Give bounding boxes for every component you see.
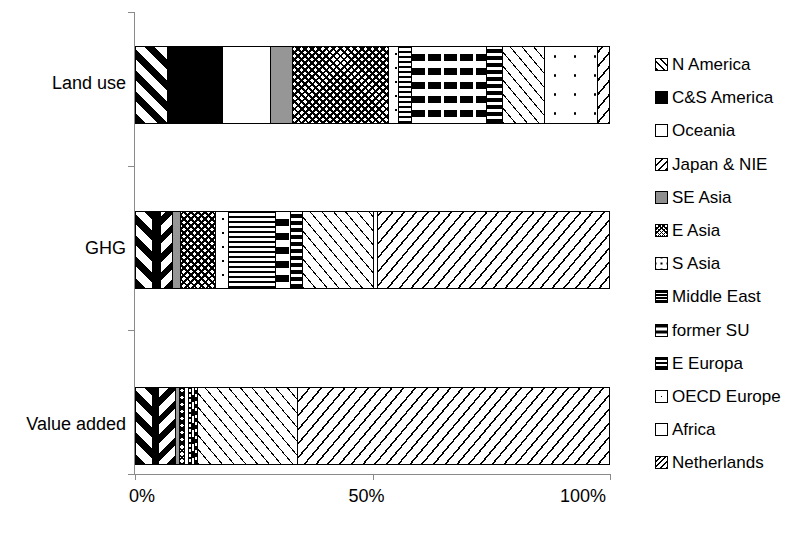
legend-swatch-e-europa-icon	[655, 357, 668, 370]
bar-segment-n-america	[136, 388, 153, 464]
bar-segment-s-asia	[389, 47, 399, 123]
y-axis-label-value-added: Value added	[26, 414, 126, 435]
y-axis-label-land-use: Land use	[52, 73, 126, 94]
legend-swatch-oceania-icon	[655, 124, 668, 137]
legend-item-former-su[interactable]: former SU	[655, 314, 801, 347]
legend-label: Africa	[672, 421, 715, 438]
bar-segment-middle-east	[399, 47, 413, 123]
legend-label: OECD Europe	[672, 388, 781, 405]
bar-land-use	[135, 46, 610, 124]
legend-swatch-former-su-icon	[655, 324, 668, 337]
legend-swatch-e-asia-icon	[655, 224, 668, 237]
legend-item-middle-east[interactable]: Middle East	[655, 280, 801, 313]
legend-label: Japan & NIE	[672, 156, 767, 173]
legend-item-e-asia[interactable]: E Asia	[655, 214, 801, 247]
x-axis-tick-100	[610, 474, 611, 480]
legend-item-netherlands[interactable]: Netherlands	[655, 446, 801, 479]
y-axis-tick-3	[128, 474, 135, 475]
legend-label: E Europa	[672, 355, 743, 372]
bar-segment-cs-america	[168, 47, 223, 123]
legend-item-africa[interactable]: Africa	[655, 413, 801, 446]
legend-item-oceania[interactable]: Oceania	[655, 114, 801, 147]
legend-item-se-asia[interactable]: SE Asia	[655, 181, 801, 214]
stacked-bar-chart: Land use GHG Value added 0%50%100% N Ame…	[0, 0, 801, 544]
bar-segment-former-su	[412, 47, 487, 123]
bar-segment-netherlands	[598, 47, 610, 123]
bar-segment-oceania	[223, 47, 271, 123]
bar-segment-japan-nie	[159, 388, 176, 464]
legend-swatch-africa-icon	[655, 423, 668, 436]
bar-segment-e-asia	[181, 212, 216, 288]
bar-segment-n-america	[136, 47, 168, 123]
bar-segment-se-asia	[173, 212, 181, 288]
bar-segment-e-asia	[293, 47, 389, 123]
y-axis-tick-2	[128, 330, 135, 331]
bar-value-added	[135, 387, 610, 465]
legend-swatch-netherlands-icon	[655, 456, 668, 469]
bar-segment-africa	[545, 47, 597, 123]
bar-segment-japan-nie	[161, 212, 173, 288]
y-axis-label-ghg: GHG	[85, 238, 126, 259]
legend-label: S Asia	[672, 255, 720, 272]
bar-segment-s-asia	[216, 212, 229, 288]
legend-label: Netherlands	[672, 454, 764, 471]
legend-swatch-n-america-icon	[655, 58, 668, 71]
legend-swatch-s-asia-icon	[655, 257, 668, 270]
bar-segment-se-asia	[271, 47, 293, 123]
bar-segment-netherlands	[378, 212, 610, 288]
legend-item-n-america[interactable]: N America	[655, 48, 801, 81]
y-axis-labels: Land use GHG Value added	[0, 0, 126, 544]
legend-item-cs-america[interactable]: C&S America	[655, 81, 801, 114]
legend-label: N America	[672, 56, 750, 73]
legend-item-e-europa[interactable]: E Europa	[655, 347, 801, 380]
legend-swatch-se-asia-icon	[655, 191, 668, 204]
legend-label: SE Asia	[672, 189, 732, 206]
bar-segment-oecd-europe	[198, 388, 298, 464]
legend-swatch-japan-nie-icon	[655, 158, 668, 171]
bar-segment-netherlands	[298, 388, 610, 464]
x-axis-tick-50	[373, 474, 374, 480]
bar-segment-oecd-europe	[303, 212, 374, 288]
x-axis-tick-0	[135, 474, 136, 480]
legend-label: Middle East	[672, 288, 761, 305]
x-axis-tick-label-100: 100%	[560, 486, 606, 507]
y-axis-tick-0	[128, 12, 135, 13]
bar-segment-n-america	[136, 212, 153, 288]
legend-label: Oceania	[672, 122, 735, 139]
legend-swatch-cs-america-icon	[655, 91, 668, 104]
legend-swatch-oecd-europe-icon	[655, 390, 668, 403]
bar-segment-e-europa	[487, 47, 502, 123]
bar-segment-cs-america	[153, 212, 161, 288]
legend-swatch-middle-east-icon	[655, 290, 668, 303]
legend-item-s-asia[interactable]: S Asia	[655, 247, 801, 280]
legend-item-japan-nie[interactable]: Japan & NIE	[655, 148, 801, 181]
bar-segment-former-su	[276, 212, 291, 288]
bar-ghg	[135, 211, 610, 289]
legend-label: former SU	[672, 322, 749, 339]
legend-item-oecd-europe[interactable]: OECD Europe	[655, 380, 801, 413]
y-axis-tick-1	[128, 166, 135, 167]
x-axis-tick-label-0: 0%	[129, 486, 155, 507]
bar-segment-e-europa	[291, 212, 303, 288]
x-axis-tick-label-50: 50%	[349, 486, 385, 507]
legend-label: E Asia	[672, 222, 720, 239]
legend-label: C&S America	[672, 89, 773, 106]
bar-segment-oecd-europe	[503, 47, 546, 123]
bar-segment-middle-east	[229, 212, 276, 288]
legend: N AmericaC&S AmericaOceaniaJapan & NIESE…	[655, 48, 801, 479]
